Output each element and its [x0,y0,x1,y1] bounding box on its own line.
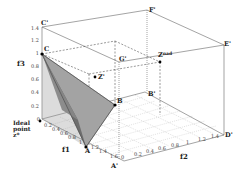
svg-text:0.6: 0.6 [31,76,39,82]
svg-text:0.8: 0.8 [31,63,39,69]
point-z-prime [94,76,97,79]
svg-text:z*: z* [13,131,20,138]
label-e-prime: E' [224,40,231,48]
svg-text:0.2: 0.2 [44,122,52,128]
svg-text:0.4: 0.4 [31,89,39,95]
svg-text:1.6: 1.6 [110,153,118,159]
svg-text:0.6: 0.6 [158,145,166,151]
svg-text:0: 0 [37,116,40,122]
label-b-prime: B' [148,90,155,98]
label-z-nad: Znad [158,51,173,60]
label-a: A [84,147,91,155]
label-f-prime: F' [149,6,156,14]
svg-text:0.8: 0.8 [171,142,179,148]
svg-text:1.4: 1.4 [211,133,219,139]
f2-ticks: 0 0.2 0.4 0.6 0.8 1 1.2 1.4 [121,133,219,160]
f1-axis-label: f1 [62,145,70,154]
f2-axis-label: f2 [180,152,188,161]
svg-text:0.4: 0.4 [146,148,154,154]
svg-text:0.2: 0.2 [31,103,39,109]
svg-text:0.6: 0.6 [60,130,68,136]
svg-text:1: 1 [79,139,82,145]
svg-text:0.2: 0.2 [134,151,142,157]
f3-ticks: 0 0.2 0.4 0.6 0.8 1 1.2 1.4 [31,25,40,122]
label-c-prime: C' [41,19,48,27]
svg-text:0.8: 0.8 [68,134,76,140]
svg-text:0.4: 0.4 [52,126,60,132]
label-g-prime: G' [119,55,127,63]
svg-text:1.4: 1.4 [31,25,39,31]
label-b: B [117,97,123,105]
label-z-prime: Z' [98,73,105,81]
pareto-simplex [42,54,115,147]
svg-text:1.2: 1.2 [91,144,99,150]
f3-axis-label: f3 [17,59,25,68]
point-z-nad [159,61,162,64]
ideal-point-label: Ideal point z* [13,119,31,138]
svg-text:1.4: 1.4 [99,148,107,154]
svg-text:1.2: 1.2 [31,37,39,43]
svg-text:0: 0 [121,154,124,160]
simplex-3d-diagram: 0 0.2 0.4 0.6 0.8 1 1.2 1.4 0.2 0.4 0.6 … [0,0,246,178]
svg-text:1.2: 1.2 [198,136,206,142]
svg-text:1: 1 [36,50,39,56]
label-d-prime: D' [225,131,233,139]
svg-text:1: 1 [186,139,189,145]
label-c: C [44,45,49,53]
label-a-prime: A' [110,162,118,170]
